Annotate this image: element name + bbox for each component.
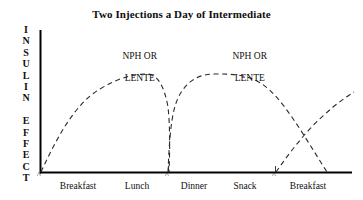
annotation-nph-lente-2: NPH OR LENTE	[205, 40, 285, 95]
injection-caret-dinner: ^	[165, 172, 169, 180]
injection-caret-breakfast-2: ^	[272, 172, 276, 180]
annotation-line-2: LENTE	[125, 73, 155, 83]
x-tick-label-snack: Snack	[219, 181, 271, 191]
insulin-effect-chart: Two Injections a Day of Intermediate I N…	[0, 0, 363, 200]
annotation-line-2: LENTE	[235, 73, 265, 83]
x-tick-label-dinner: Dinner	[168, 181, 220, 191]
curve-nph-lente-next-morning	[276, 92, 354, 172]
x-tick-label-lunch: Lunch	[110, 181, 164, 191]
plot-area	[0, 0, 363, 200]
annotation-line-1: NPH OR	[122, 51, 157, 61]
x-tick-label-breakfast-1: Breakfast	[43, 181, 113, 191]
annotation-nph-lente-1: NPH OR LENTE	[95, 40, 175, 95]
x-tick-label-breakfast-2: Breakfast	[273, 181, 343, 191]
annotation-line-1: NPH OR	[232, 51, 267, 61]
injection-caret-breakfast-1: ^	[37, 172, 41, 180]
